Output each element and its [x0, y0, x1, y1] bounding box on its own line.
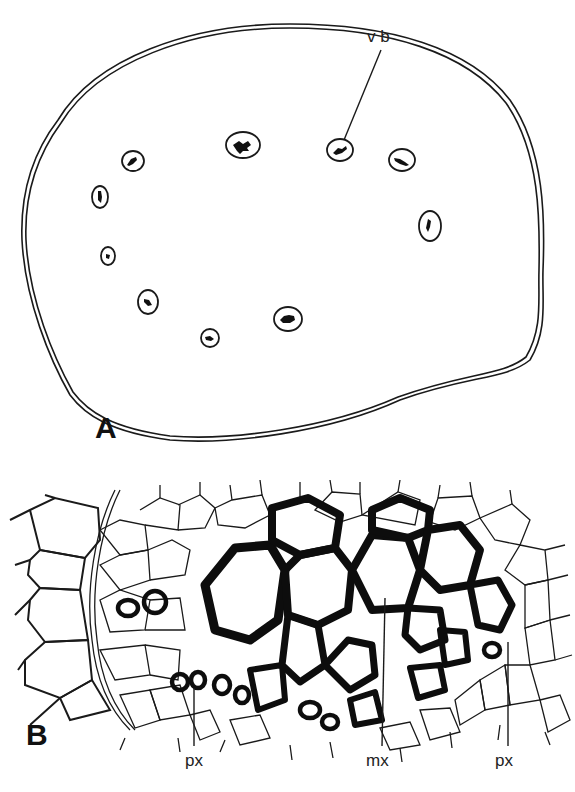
- panel-b-tissue-detail: B px mx px: [0, 470, 575, 792]
- label-px-right: px: [495, 752, 513, 769]
- label-mx: mx: [366, 752, 389, 769]
- panel-a-cross-section: v b A: [0, 0, 575, 470]
- label-px-left: px: [185, 752, 203, 769]
- vb-leader-line: [344, 50, 381, 140]
- vascular-bundles: [92, 132, 441, 347]
- cell-tissue-drawing: [0, 470, 575, 792]
- stem-outline-drawing: [0, 0, 575, 470]
- parenchyma-cells: [10, 480, 572, 762]
- panel-letter-a: A: [95, 413, 117, 443]
- panel-letter-b: B: [26, 720, 48, 750]
- label-vb: v b: [367, 28, 390, 45]
